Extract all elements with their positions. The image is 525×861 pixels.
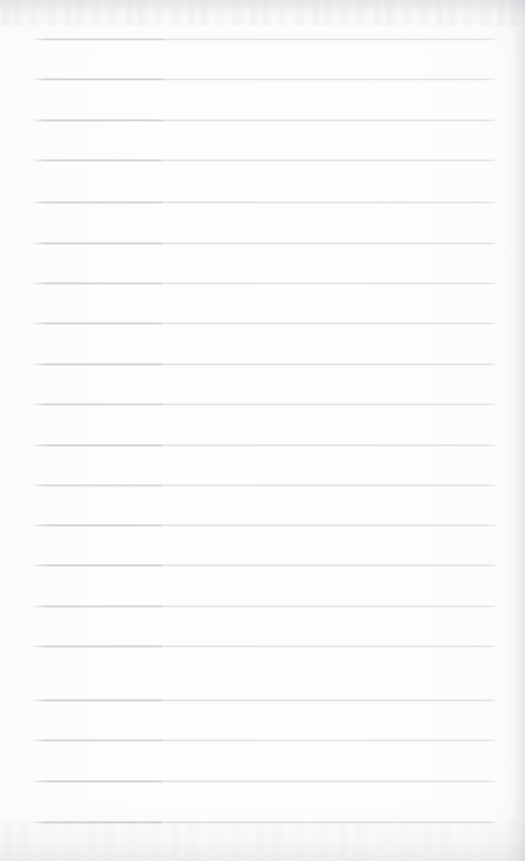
ruled-line [0, 524, 525, 527]
ruled-line [0, 363, 525, 366]
ruled-line-segment-right [162, 605, 501, 608]
ruled-line-segment-left [31, 403, 162, 406]
ruled-line-segment-right [162, 821, 501, 824]
ruled-line-segment-left [31, 201, 162, 204]
ruled-line [0, 38, 525, 41]
ruled-line-segment-right [162, 699, 501, 702]
ruled-line-segment-left [31, 605, 162, 608]
ruled-line-segment-left [31, 444, 162, 447]
ruled-line-segment-right [162, 38, 501, 41]
ruled-line-segment-left [31, 484, 162, 487]
ruled-line [0, 645, 525, 648]
ruled-line [0, 201, 525, 204]
ruled-line-segment-right [162, 119, 501, 122]
ruled-line-segment-right [162, 201, 501, 204]
ruled-line-segment-right [162, 780, 501, 783]
ruled-line-segment-left [31, 119, 162, 122]
ruled-line-segment-right [162, 645, 501, 648]
ruled-line [0, 739, 525, 742]
ruled-line-segment-right [162, 739, 501, 742]
ruled-line-segment-right [162, 564, 501, 567]
ruled-line-segment-left [31, 564, 162, 567]
ruled-line [0, 444, 525, 447]
ruled-line-segment-right [162, 484, 501, 487]
ruled-line-segment-right [162, 282, 501, 285]
ruled-line-segment-left [31, 363, 162, 366]
ruled-line [0, 564, 525, 567]
ruled-line [0, 322, 525, 325]
ruled-line [0, 159, 525, 162]
ruled-lines-layer [0, 0, 525, 861]
ruled-line-segment-left [31, 645, 162, 648]
ruled-line-segment-left [31, 739, 162, 742]
ruled-line [0, 242, 525, 245]
ruled-line-segment-left [31, 821, 162, 824]
ruled-line [0, 780, 525, 783]
ruled-line [0, 403, 525, 406]
ruled-line-segment-right [162, 444, 501, 447]
ruled-line [0, 282, 525, 285]
ruled-line-segment-left [31, 78, 162, 81]
ruled-line-segment-left [31, 524, 162, 527]
ruled-line-segment-right [162, 78, 501, 81]
ruled-line-segment-right [162, 159, 501, 162]
ruled-line-segment-left [31, 322, 162, 325]
ruled-line [0, 119, 525, 122]
ruled-line-segment-right [162, 363, 501, 366]
ruled-line [0, 699, 525, 702]
ruled-line-segment-left [31, 780, 162, 783]
ruled-line-segment-left [31, 242, 162, 245]
ruled-line [0, 605, 525, 608]
ruled-line [0, 78, 525, 81]
ruled-line-segment-left [31, 38, 162, 41]
scanned-page [0, 0, 525, 861]
ruled-line-segment-right [162, 322, 501, 325]
ruled-line-segment-left [31, 699, 162, 702]
ruled-line [0, 821, 525, 824]
ruled-line-segment-left [31, 282, 162, 285]
ruled-line-segment-left [31, 159, 162, 162]
ruled-line-segment-right [162, 242, 501, 245]
ruled-line [0, 484, 525, 487]
ruled-line-segment-right [162, 524, 501, 527]
ruled-line-segment-right [162, 403, 501, 406]
